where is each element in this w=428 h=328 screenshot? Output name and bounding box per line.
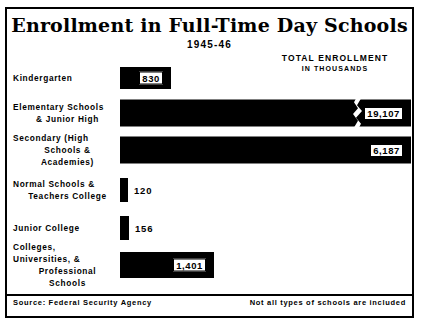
bar-label-line1: Colleges, Universities, & [13,242,80,264]
bar-value: 6,187 [370,144,403,157]
bar-value: 156 [135,223,153,234]
bar-value: 1,401 [173,259,206,272]
footer-divider [7,294,412,296]
footer-source: Source: Federal Security Agency [13,298,152,307]
bar-label: Kindergarten [13,73,116,84]
bar-label: Normal Schools & Teachers College [13,178,116,202]
bar-elementary-junior-high: 19,107 [120,100,411,127]
plot-area: Kindergarten 830 Elementary Schools & Ju… [7,64,412,282]
bar-label: Colleges, Universities, & Professional S… [13,241,116,289]
bar-label: Junior College [13,223,116,234]
legend-title: TOTAL ENROLLMENT [265,53,405,63]
chart-frame: Enrollment in Full-Time Day Schools 1945… [5,7,414,318]
footer-note: Not all types of schools are included [250,298,406,307]
chart-title: Enrollment in Full-Time Day Schools [7,14,412,36]
bar-value: 120 [134,185,152,196]
bar-label-line1: Kindergarten [13,73,72,83]
bar-row: Colleges, Universities, & Professional S… [7,250,412,280]
bar-break-mark-icon [352,99,364,128]
bar-label-line1: Elementary Schools [13,102,104,112]
bar-row: Junior College 156 [7,213,412,243]
bar-secondary-high: 6,187 [120,137,411,164]
bar-row: Kindergarten 830 [7,64,412,92]
bar-junior-college [120,216,129,240]
bar-value: 19,107 [364,107,403,120]
bar-value: 830 [139,72,163,85]
bar-normal-schools [120,178,128,202]
bar-label-line1: Normal Schools & [13,179,95,189]
bar-label-line1: Secondary (High [13,133,89,143]
bar-kindergarten: 830 [120,67,171,89]
chart-subtitle: 1945-46 [7,39,412,50]
footer: Source: Federal Security Agency Not all … [13,298,406,312]
bar-label-line2: Professional Schools [13,265,116,289]
bar-label: Secondary (High Schools & Academies) [13,132,116,168]
bar-label-line2: Schools & Academies) [13,144,116,168]
bar-colleges-universities: 1,401 [120,252,214,278]
bar-label-line2: Teachers College [13,190,116,202]
bar-row: Elementary Schools & Junior High 19,107 [7,98,412,128]
bar-label-line2: & Junior High [13,113,116,125]
bar-row: Normal Schools & Teachers College 120 [7,175,412,205]
bar-label-line1: Junior College [13,223,80,233]
bar-row: Secondary (High Schools & Academies) 6,1… [7,135,412,165]
bar-label: Elementary Schools & Junior High [13,101,116,125]
